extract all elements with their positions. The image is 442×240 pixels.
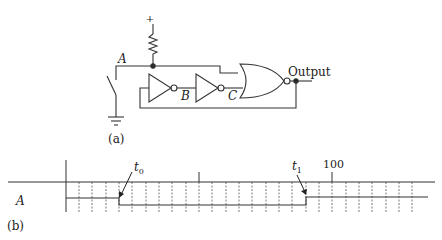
switch-icon <box>107 76 116 95</box>
supply-label: + <box>146 13 154 24</box>
timing-caption: (b) <box>7 219 24 233</box>
inverter-b-icon <box>149 74 177 102</box>
inverter-c-icon <box>196 74 224 102</box>
nor-gate-icon <box>240 64 290 98</box>
inverter-c-label: C <box>228 89 237 103</box>
node-a-label: A <box>117 52 127 66</box>
circuit <box>107 24 312 125</box>
diagram-canvas: + A B C Output (a) <box>0 0 442 240</box>
circuit-caption: (a) <box>108 132 125 146</box>
t1-label: t1 <box>292 159 302 175</box>
resistor-icon <box>149 34 157 66</box>
timing-diagram <box>8 160 435 212</box>
t0-arrow-icon <box>119 172 132 198</box>
tick-label-100: 100 <box>323 158 344 171</box>
waveform-a <box>66 197 428 205</box>
ground-icon <box>108 117 124 125</box>
output-label: Output <box>288 65 331 79</box>
t1-arrow-icon <box>297 175 307 195</box>
feedback-wire <box>140 81 296 108</box>
t0-label: t0 <box>134 160 144 176</box>
inverter-b-label: B <box>180 89 190 103</box>
node-a-wire <box>116 66 238 78</box>
signal-a-label: A <box>15 194 25 208</box>
